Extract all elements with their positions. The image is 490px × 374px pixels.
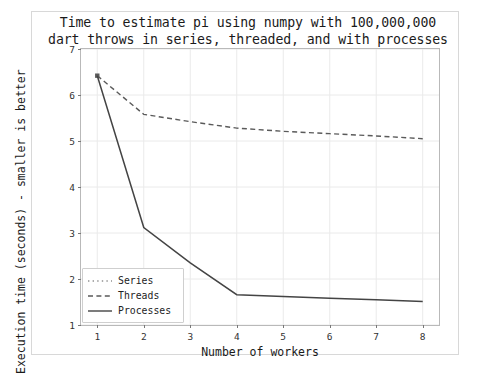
x-tick-label: 5	[280, 331, 286, 342]
x-tick-mark	[190, 325, 191, 328]
x-tick-label: 8	[420, 331, 426, 342]
legend-item-threads: Threads	[87, 288, 178, 303]
x-tick-label: 7	[373, 331, 379, 342]
legend-line-sample-dotted	[87, 276, 113, 286]
y-tick-label: 4	[69, 182, 75, 193]
legend-item-series: Series	[87, 273, 178, 288]
x-tick-mark	[376, 325, 377, 328]
x-tick-label: 6	[327, 331, 333, 342]
y-axis-label: Execution time (seconds) - smaller is be…	[14, 96, 28, 374]
x-axis-label: Number of workers	[80, 345, 440, 359]
y-tick-mark	[78, 49, 81, 50]
x-tick-mark	[97, 325, 98, 328]
y-tick-label: 2	[69, 274, 75, 285]
x-tick-mark	[283, 325, 284, 328]
y-tick-label: 5	[69, 136, 75, 147]
y-tick-mark	[78, 279, 81, 280]
legend-label-series: Series	[118, 275, 153, 286]
legend-label-threads: Threads	[118, 290, 159, 301]
y-tick-label: 3	[69, 228, 75, 239]
y-tick-mark	[78, 95, 81, 96]
legend-line-sample-solid	[87, 306, 113, 316]
y-tick-mark	[78, 325, 81, 326]
legend-item-processes: Processes	[87, 303, 178, 318]
x-tick-mark	[423, 325, 424, 328]
x-tick-label: 3	[187, 331, 193, 342]
y-tick-label: 6	[69, 90, 75, 101]
x-tick-mark	[237, 325, 238, 328]
x-tick-mark	[330, 325, 331, 328]
y-tick-mark	[78, 187, 81, 188]
y-axis-label-container: Execution time (seconds) - smaller is be…	[14, 48, 28, 326]
y-tick-label: 1	[69, 320, 75, 331]
chart-title: Time to estimate pi using numpy with 100…	[48, 14, 448, 48]
chart-legend: Series Threads Processes	[82, 268, 184, 323]
x-tick-label: 4	[234, 331, 240, 342]
y-tick-mark	[78, 141, 81, 142]
x-tick-label: 1	[94, 331, 100, 342]
x-tick-label: 2	[141, 331, 147, 342]
y-tick-label: 7	[69, 44, 75, 55]
y-tick-mark	[78, 233, 81, 234]
figure: Time to estimate pi using numpy with 100…	[0, 0, 490, 374]
legend-label-processes: Processes	[118, 305, 171, 316]
series-line-threads	[97, 76, 422, 139]
x-tick-mark	[144, 325, 145, 328]
legend-line-sample-dashed	[87, 291, 113, 301]
